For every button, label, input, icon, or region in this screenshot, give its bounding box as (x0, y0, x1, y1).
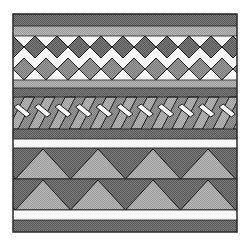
white-stripe-2-fill (13, 210, 237, 220)
bands-layer (0, 14, 249, 232)
mid-dark-band-fill (13, 88, 237, 97)
mid-light-band-fill (13, 80, 237, 88)
mid-dark-band (13, 88, 237, 97)
lower-dark-band-fill (13, 129, 237, 139)
triangle-band-bottom (0, 179, 249, 210)
white-stripe-1 (13, 139, 237, 148)
braid-strand (0, 97, 14, 129)
mid-light-band (13, 80, 237, 88)
white-stripe-1-fill (13, 139, 237, 148)
diamond-tile (0, 58, 13, 80)
bottom-dark-band (13, 220, 237, 232)
braid-band (0, 97, 249, 129)
top-light-band (13, 26, 237, 36)
triangle-band-top (0, 148, 249, 179)
bottom-dark-band-fill (13, 220, 237, 232)
top-dark-band-fill (13, 14, 237, 26)
diamond-tile (244, 36, 249, 58)
diamond-band (0, 36, 249, 80)
diamond-tile (0, 36, 2, 58)
white-stripe-2 (13, 210, 237, 220)
top-light-band-fill (13, 26, 237, 36)
border-pattern-figure (0, 0, 249, 248)
braid-white-bar (0, 104, 10, 117)
top-dark-band (13, 14, 237, 26)
lower-dark-band (13, 129, 237, 139)
braid-white-bar (240, 104, 249, 117)
